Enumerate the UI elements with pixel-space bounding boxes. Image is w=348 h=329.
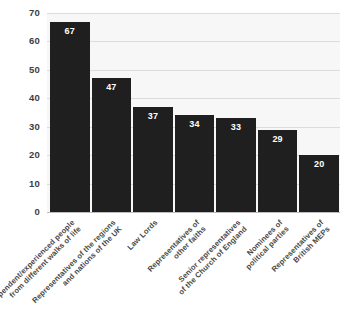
- y-tick-label: 40: [2, 94, 40, 104]
- y-tick-label: 30: [2, 122, 40, 132]
- bar: 37: [133, 107, 173, 212]
- bar-value-label: 33: [216, 123, 256, 132]
- y-tick-label: 50: [2, 65, 40, 75]
- y-tick-label: 60: [2, 37, 40, 47]
- bar-value-label: 29: [258, 135, 298, 144]
- bar-value-label: 47: [92, 83, 132, 92]
- y-axis: 010203040506070: [0, 0, 47, 225]
- y-tick-label: 10: [2, 179, 40, 189]
- bar-value-label: 20: [299, 160, 339, 169]
- y-tick-label: 20: [2, 150, 40, 160]
- x-axis-labels: Independent/experienced peoplefrom diffe…: [0, 212, 348, 329]
- bar: 33: [216, 118, 256, 212]
- y-tick-label: 70: [2, 8, 40, 18]
- bars-layer: 67473734332920: [47, 13, 340, 212]
- bar-value-label: 67: [50, 27, 90, 36]
- bar-value-label: 37: [133, 112, 173, 121]
- bar-chart: 010203040506070 67473734332920 Independe…: [0, 0, 348, 329]
- bar: 34: [175, 115, 215, 212]
- bar: 67: [50, 22, 90, 212]
- bar: 47: [92, 78, 132, 212]
- bar: 29: [258, 130, 298, 212]
- bar-value-label: 34: [175, 120, 215, 129]
- bar: 20: [299, 155, 339, 212]
